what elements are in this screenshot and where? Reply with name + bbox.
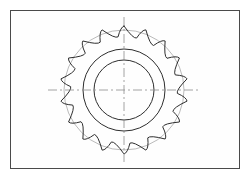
sprocket-drawing bbox=[0, 0, 250, 179]
centerlines bbox=[48, 17, 200, 163]
screenshot-root bbox=[0, 0, 250, 179]
